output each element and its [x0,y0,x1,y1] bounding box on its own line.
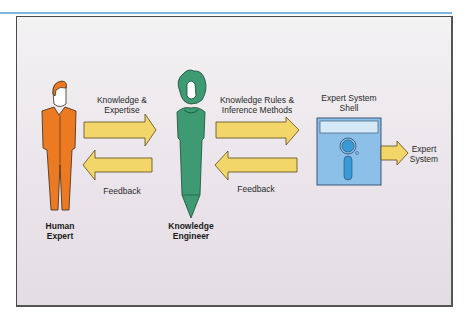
arrow-left-feedback-2 [215,151,297,180]
diagram-canvas [0,0,465,324]
edge-label-feedback-2: Feedback [226,184,286,194]
arrow-left-feedback-1 [83,150,152,180]
edge-label-rules-methods: Knowledge Rules & Inference Methods [214,95,300,115]
node-label-expert-system-shell: Expert System Shell [312,93,386,113]
arrow-right-knowledge-expertise [84,114,156,146]
edge-label-knowledge-expertise: Knowledge & Expertise [92,95,152,115]
floppy-disk-icon [317,118,381,185]
node-label-knowledge-engineer: Knowledge Engineer [160,221,222,241]
node-label-human-expert: Human Expert [38,221,82,241]
arrow-right-rules-methods [216,117,299,145]
edge-label-feedback-1: Feedback [92,186,152,196]
knowledge-engineer-figure-icon [177,70,206,218]
arrow-right-expert-system [381,141,408,165]
node-label-expert-system: Expert System [408,144,440,164]
human-expert-figure-icon [42,81,76,210]
